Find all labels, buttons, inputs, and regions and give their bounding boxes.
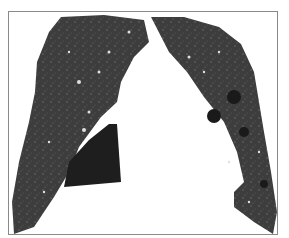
left-lung	[151, 17, 277, 234]
ct-image-frame	[8, 11, 278, 235]
right-lung	[12, 15, 149, 234]
cyst	[260, 180, 268, 188]
cyst	[207, 109, 221, 123]
cyst	[239, 127, 249, 137]
cyst	[227, 90, 241, 104]
lung-ct-image	[9, 12, 278, 235]
